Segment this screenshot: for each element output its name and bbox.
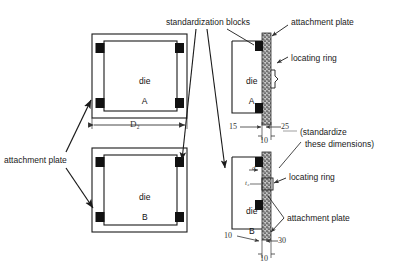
die-a-plan-label: die A	[116, 66, 164, 116]
die-a-plan-line2: A	[142, 96, 148, 106]
dim-label-d: d	[252, 164, 256, 172]
callout-standardize-line2: these dimensions)	[305, 139, 374, 149]
dim-a-15: 15	[229, 122, 237, 131]
die-a-plan-line1: die	[139, 76, 150, 86]
dim-b-30: 30	[278, 236, 286, 245]
die-a-section-line1: die	[246, 76, 257, 86]
die-a-section-line2: A	[249, 96, 255, 106]
die-b-plan-line1: die	[139, 192, 150, 202]
die-b-section-line2: B	[249, 226, 255, 236]
dim-b-10-left: 10	[224, 231, 232, 240]
die-b-plan-line2: B	[142, 212, 148, 222]
die-b-section-label: die B	[234, 196, 260, 246]
dim-b-10-bottom: 10	[260, 254, 268, 263]
dim-a-25: 25	[281, 122, 289, 131]
callout-attachment-plate-top: attachment plate	[291, 17, 354, 27]
dimension-d2: D₂	[130, 119, 140, 129]
dim-label-t2: t₂	[245, 179, 249, 187]
callout-locating-ring-top: locating ring	[291, 53, 337, 63]
callout-attachment-plate-left: attachment plate	[4, 155, 67, 165]
dim-a-10: 10	[260, 136, 268, 145]
callout-attachment-plate-bottom: attachment plate	[287, 213, 350, 223]
die-a-section-label: die A	[234, 66, 260, 116]
callout-locating-ring-bottom: locating ring	[289, 172, 335, 182]
die-b-section-line1: die	[246, 206, 257, 216]
die-b-plan-label: die B	[116, 182, 164, 232]
callout-standardize-line1: (standardize	[300, 127, 347, 137]
figure-canvas: die A die B D₂ die A die B 15 25 10 10 3…	[0, 0, 399, 270]
callout-standardization-blocks: standardization blocks	[166, 17, 250, 27]
